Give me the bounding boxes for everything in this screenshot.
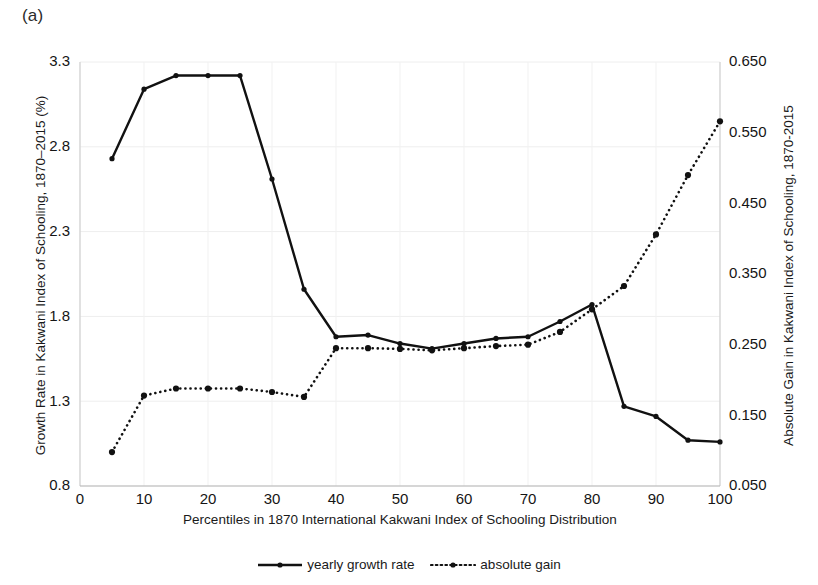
data-point bbox=[493, 343, 499, 349]
data-point bbox=[461, 345, 467, 351]
legend-label-yearly-growth-rate: yearly growth rate bbox=[307, 557, 414, 572]
data-point bbox=[557, 329, 563, 335]
data-point bbox=[173, 385, 179, 391]
plot-canvas bbox=[0, 0, 818, 585]
data-point bbox=[333, 345, 339, 351]
data-point bbox=[621, 283, 627, 289]
data-point bbox=[109, 156, 114, 161]
data-point bbox=[653, 414, 658, 419]
data-point bbox=[621, 404, 626, 409]
data-point bbox=[365, 345, 371, 351]
data-point bbox=[333, 334, 338, 339]
data-point bbox=[557, 319, 562, 324]
data-point bbox=[205, 385, 211, 391]
data-point bbox=[525, 334, 530, 339]
legend-label-absolute-gain: absolute gain bbox=[480, 557, 560, 572]
data-point bbox=[653, 231, 659, 237]
data-point bbox=[493, 336, 498, 341]
data-point bbox=[173, 73, 178, 78]
data-point bbox=[237, 73, 242, 78]
figure-panel-a: (a) Growth Rate in Kakwani Index of Scho… bbox=[0, 0, 818, 585]
chart-legend: yearly growth rate absolute gain bbox=[0, 556, 818, 572]
data-point bbox=[685, 438, 690, 443]
legend-entry-yearly-growth-rate: yearly growth rate bbox=[257, 556, 414, 572]
gridlines bbox=[80, 62, 720, 486]
series-line-absolute-gain bbox=[112, 121, 720, 452]
data-point bbox=[589, 306, 595, 312]
data-point bbox=[525, 342, 531, 348]
data-point bbox=[365, 332, 370, 337]
legend-dotted-line-icon bbox=[430, 559, 476, 571]
data-point bbox=[397, 346, 403, 352]
data-point bbox=[205, 73, 210, 78]
data-point bbox=[717, 439, 722, 444]
data-point bbox=[429, 347, 435, 353]
legend-entry-absolute-gain: absolute gain bbox=[430, 556, 560, 572]
data-point bbox=[717, 118, 723, 124]
data-point bbox=[397, 341, 402, 346]
series-line-yearly-growth-rate bbox=[112, 76, 720, 442]
data-point bbox=[685, 172, 691, 178]
data-point bbox=[141, 392, 147, 398]
data-point bbox=[269, 176, 274, 181]
data-point bbox=[141, 87, 146, 92]
data-point bbox=[109, 449, 115, 455]
series-layer bbox=[109, 73, 723, 455]
data-point bbox=[301, 287, 306, 292]
data-point bbox=[301, 394, 307, 400]
legend-solid-line-icon bbox=[257, 559, 303, 571]
data-point bbox=[237, 385, 243, 391]
data-point bbox=[269, 389, 275, 395]
